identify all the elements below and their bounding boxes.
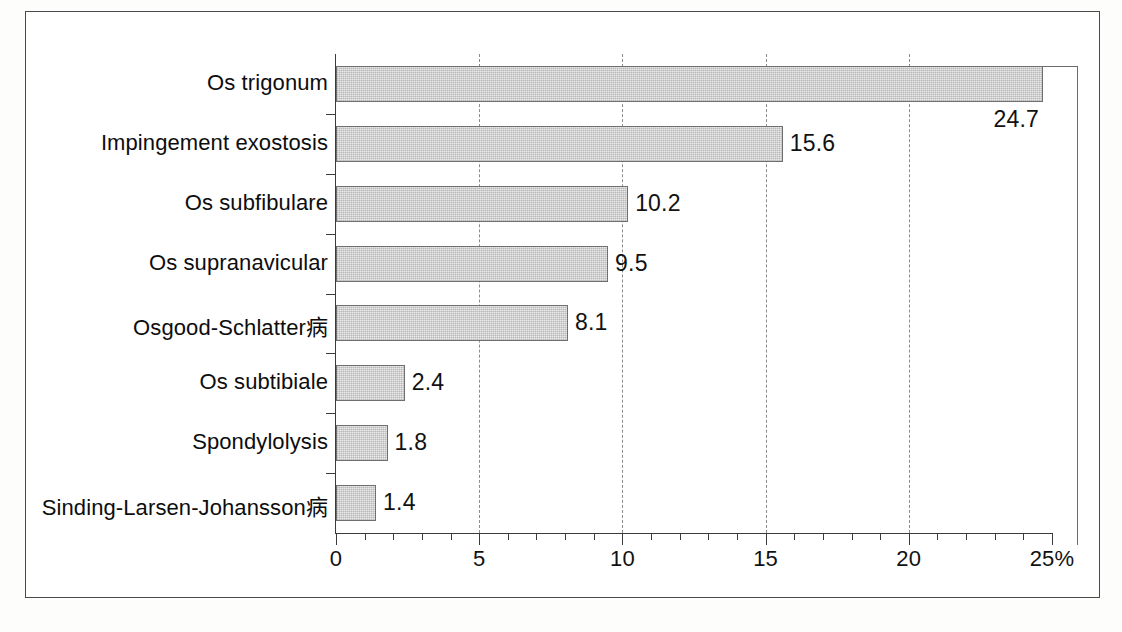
gridline-20	[909, 54, 910, 533]
x-tick-2	[393, 534, 394, 540]
figure-page: 0510152025% Os trigonumImpingement exost…	[0, 0, 1122, 632]
x-tick-22	[966, 534, 967, 540]
x-tick-16	[794, 534, 795, 540]
x-tick-14	[737, 534, 738, 540]
x-tick-10	[622, 534, 623, 545]
y-tick-1	[326, 114, 336, 115]
category-label: Os subtibiale	[200, 369, 328, 395]
x-tick-0	[336, 534, 337, 545]
category-label: Sinding-Larsen-Johansson病	[42, 489, 328, 521]
bar	[336, 485, 376, 521]
bar-value-label: 1.4	[383, 489, 416, 516]
x-tick-7	[536, 534, 537, 540]
x-tick-20	[909, 534, 910, 545]
x-tick-6	[508, 534, 509, 540]
bar	[336, 126, 783, 162]
x-tick-15	[766, 534, 767, 545]
x-tick-label-25pct: 25%	[1030, 546, 1075, 572]
x-tick-25	[1052, 534, 1053, 545]
x-tick-12	[680, 534, 681, 540]
x-tick-label-20: 20	[896, 546, 921, 572]
category-label: Osgood-Schlatter病	[133, 309, 328, 341]
y-tick-7	[326, 473, 336, 474]
category-label: Os supranavicular	[149, 250, 328, 276]
x-tick-11	[651, 534, 652, 540]
bar	[336, 425, 388, 461]
bar	[336, 66, 1043, 102]
y-tick-6	[326, 413, 336, 414]
x-tick-24	[1023, 534, 1024, 540]
x-tick-13	[708, 534, 709, 540]
category-label: Impingement exostosis	[101, 130, 328, 156]
category-label: Os subfibulare	[185, 190, 328, 216]
category-label: Os trigonum	[207, 70, 328, 96]
bar-value-label: 9.5	[615, 250, 648, 277]
bar-value-label: 2.4	[412, 369, 445, 396]
x-axis-line	[336, 533, 1053, 534]
y-tick-5	[326, 353, 336, 354]
x-tick-label-15: 15	[753, 546, 778, 572]
y-tick-3	[326, 234, 336, 235]
bar	[336, 246, 608, 282]
x-tick-5	[479, 534, 480, 545]
x-tick-label-0: 0	[330, 546, 342, 572]
x-tick-17	[823, 534, 824, 540]
x-tick-9	[594, 534, 595, 540]
x-tick-23	[995, 534, 996, 540]
x-tick-21	[937, 534, 938, 540]
bar-value-label: 24.7	[993, 106, 1039, 133]
x-tick-1	[365, 534, 366, 540]
bar-value-label: 8.1	[575, 309, 608, 336]
x-tick-label-5: 5	[473, 546, 485, 572]
bar	[336, 305, 568, 341]
x-tick-4	[451, 534, 452, 540]
x-tick-8	[565, 534, 566, 540]
y-tick-2	[326, 174, 336, 175]
bar-value-label: 10.2	[635, 190, 681, 217]
plot-border-right	[1077, 66, 1078, 545]
bar	[336, 186, 628, 222]
x-tick-19	[880, 534, 881, 540]
x-tick-18	[852, 534, 853, 540]
y-tick-4	[326, 294, 336, 295]
bar-value-label: 1.8	[395, 429, 428, 456]
category-label: Spondylolysis	[192, 429, 328, 455]
bar	[336, 365, 405, 401]
x-tick-label-10: 10	[610, 546, 635, 572]
bar-value-label: 15.6	[790, 130, 836, 157]
x-tick-3	[422, 534, 423, 540]
